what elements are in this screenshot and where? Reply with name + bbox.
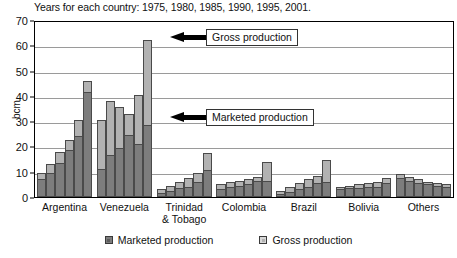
chart-title: Years for each country: 1975, 1980, 1985… [34, 1, 311, 13]
y-axis-tick-40: 40 [0, 91, 28, 103]
gross-production-callout: Gross production [170, 30, 298, 45]
bar-segment-gross [97, 120, 106, 169]
bar[interactable] [253, 177, 262, 197]
bar-segment-gross [83, 81, 92, 92]
bar-segment-marketed [276, 194, 285, 197]
bar-segment-gross [262, 162, 271, 181]
x-axis-label-colombia: Colombia [222, 202, 266, 214]
bar-segment-marketed [304, 187, 313, 197]
bar-segment-marketed [175, 188, 184, 197]
x-axis-labels: ArgentinaVenezuelaTrinidad& TobagoColomb… [34, 200, 454, 226]
bar-segment-gross [313, 176, 322, 184]
bar[interactable] [336, 187, 345, 197]
bar[interactable] [276, 191, 285, 197]
x-axis-label-venezuela: Venezuela [100, 202, 149, 214]
y-axis-tick-30: 30 [0, 116, 28, 128]
bar-segment-marketed [433, 186, 442, 197]
bar[interactable] [405, 177, 414, 197]
bar[interactable] [244, 179, 253, 197]
bar-segment-marketed [193, 182, 202, 197]
chart-legend: Marketed productionGross production [0, 234, 457, 246]
legend-label: Marketed production [118, 234, 214, 246]
bar-segment-marketed [405, 181, 414, 197]
bar[interactable] [97, 120, 106, 197]
bar-segment-marketed [65, 150, 74, 197]
legend-swatch-icon [105, 236, 113, 244]
bar[interactable] [106, 101, 115, 197]
bar[interactable] [285, 187, 294, 197]
bar[interactable] [235, 181, 244, 197]
bar[interactable] [46, 164, 55, 197]
bar[interactable] [37, 173, 46, 197]
bar[interactable] [65, 140, 74, 197]
bar[interactable] [442, 184, 451, 197]
bar[interactable] [175, 182, 184, 197]
bar-segment-gross [55, 152, 64, 163]
y-axis-tick-70: 70 [0, 15, 28, 27]
bar[interactable] [124, 114, 133, 197]
bar-segment-gross [46, 164, 55, 173]
bar-segment-marketed [83, 92, 92, 197]
bar[interactable] [295, 183, 304, 197]
bar-segment-gross [203, 153, 212, 171]
bar[interactable] [193, 173, 202, 197]
bar-segment-marketed [226, 187, 235, 197]
bar[interactable] [382, 178, 391, 197]
marketed-production-callout-label: Marketed production [206, 109, 314, 126]
y-axis-tick-10: 10 [0, 167, 28, 179]
bar[interactable] [396, 174, 405, 197]
bar[interactable] [262, 162, 271, 197]
bar[interactable] [226, 182, 235, 197]
bar[interactable] [313, 176, 322, 197]
y-axis-tick-60: 60 [0, 40, 28, 52]
bar-segment-gross [304, 179, 313, 187]
bar[interactable] [322, 160, 331, 197]
bar-segment-gross [322, 160, 331, 181]
bar[interactable] [216, 184, 225, 197]
bar[interactable] [373, 182, 382, 197]
x-axis-label-brazil: Brazil [291, 202, 317, 214]
bar-group-venezuela [97, 22, 152, 197]
bar[interactable] [423, 182, 432, 197]
bar-segment-marketed [216, 189, 225, 197]
bar-segment-gross [184, 178, 193, 187]
marketed-production-callout: Marketed production [170, 110, 314, 125]
x-axis-label-trinidad-tobago: Trinidad& Tobago [162, 202, 206, 225]
bar[interactable] [143, 40, 152, 197]
bar[interactable] [83, 81, 92, 197]
bar-segment-marketed [262, 181, 271, 197]
bar-segment-gross [143, 40, 152, 125]
bar-segment-gross [115, 107, 124, 147]
legend-item-light[interactable]: Gross production [259, 234, 352, 246]
bar-segment-marketed [345, 188, 354, 197]
bar[interactable] [74, 120, 83, 197]
bar[interactable] [203, 153, 212, 197]
bar-segment-marketed [46, 173, 55, 197]
bar[interactable] [134, 95, 143, 197]
bar-segment-gross [106, 101, 115, 155]
bar-segment-marketed [313, 183, 322, 197]
bar[interactable] [433, 183, 442, 197]
gross-production-callout-label: Gross production [206, 29, 298, 46]
bar-segment-marketed [37, 179, 46, 197]
bar-segment-marketed [74, 136, 83, 197]
bar-segment-marketed [143, 125, 152, 197]
bar-segment-gross [74, 120, 83, 136]
bar[interactable] [364, 183, 373, 197]
bar[interactable] [345, 186, 354, 197]
bar[interactable] [414, 179, 423, 197]
bar[interactable] [115, 107, 124, 197]
bar[interactable] [304, 179, 313, 197]
bar[interactable] [166, 186, 175, 197]
bar[interactable] [157, 189, 166, 197]
bar-segment-marketed [203, 170, 212, 197]
bar[interactable] [55, 152, 64, 198]
bar[interactable] [354, 184, 363, 197]
bar-segment-gross [134, 95, 143, 144]
bar-segment-marketed [235, 186, 244, 197]
bar[interactable] [184, 178, 193, 197]
bar-segment-marketed [373, 187, 382, 197]
bar-segment-marketed [55, 163, 64, 197]
bar-segment-marketed [97, 169, 106, 197]
legend-item-dark[interactable]: Marketed production [105, 234, 214, 246]
